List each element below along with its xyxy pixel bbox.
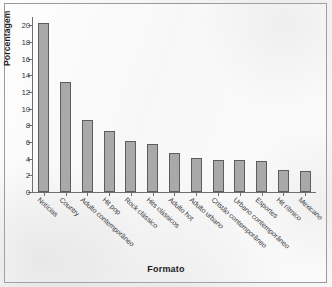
bar xyxy=(104,131,115,192)
y-axis-tick-label: 0 xyxy=(26,188,30,197)
y-axis-tick-label: 6 xyxy=(26,138,30,147)
bar-slot xyxy=(185,16,207,192)
y-axis-tick-label: 8 xyxy=(26,121,30,130)
bar-slot xyxy=(251,16,273,192)
bar xyxy=(213,160,224,193)
y-axis-tick-label: 12 xyxy=(22,88,31,97)
y-axis-tick-label: 16 xyxy=(22,54,31,63)
bar-slot xyxy=(33,16,55,192)
bar-slot xyxy=(164,16,186,192)
bar xyxy=(82,120,93,192)
bar xyxy=(256,161,267,192)
x-axis-title: Formato xyxy=(0,264,332,274)
bar-slot xyxy=(77,16,99,192)
bar-slot xyxy=(120,16,142,192)
bar xyxy=(169,153,180,192)
plot-area: 02468101214161820 xyxy=(32,17,316,193)
y-axis-tick-label: 4 xyxy=(26,154,30,163)
y-axis-tick-label: 10 xyxy=(22,104,31,113)
y-axis-tick-label: 20 xyxy=(22,21,31,30)
bar xyxy=(147,144,158,192)
bar-series xyxy=(33,16,316,192)
x-axis-category-label: Country xyxy=(57,196,80,218)
bar xyxy=(234,160,245,192)
bar xyxy=(278,170,289,192)
bar xyxy=(60,82,71,192)
bar-slot xyxy=(98,16,120,192)
bar-slot xyxy=(272,16,294,192)
bar-slot xyxy=(142,16,164,192)
bar-slot xyxy=(207,16,229,192)
y-axis-tick-label: 18 xyxy=(22,38,31,47)
bar xyxy=(300,171,311,192)
bar-slot xyxy=(55,16,77,192)
bar-chart-figure: Porcentagem 02468101214161820 NotíciasCo… xyxy=(0,0,332,287)
bar-slot xyxy=(294,16,316,192)
x-axis-category-labels: NotíciasCountryAdulto contemporâneoHit p… xyxy=(32,196,316,258)
y-axis-title: Porcentagem xyxy=(2,10,12,66)
bar xyxy=(191,158,202,192)
bar-slot xyxy=(229,16,251,192)
x-axis-category-label: Notícias xyxy=(36,196,60,219)
bar xyxy=(38,23,49,192)
y-axis-tick-label: 2 xyxy=(26,171,30,180)
bar xyxy=(125,141,136,192)
y-axis-tick-label: 14 xyxy=(22,71,31,80)
